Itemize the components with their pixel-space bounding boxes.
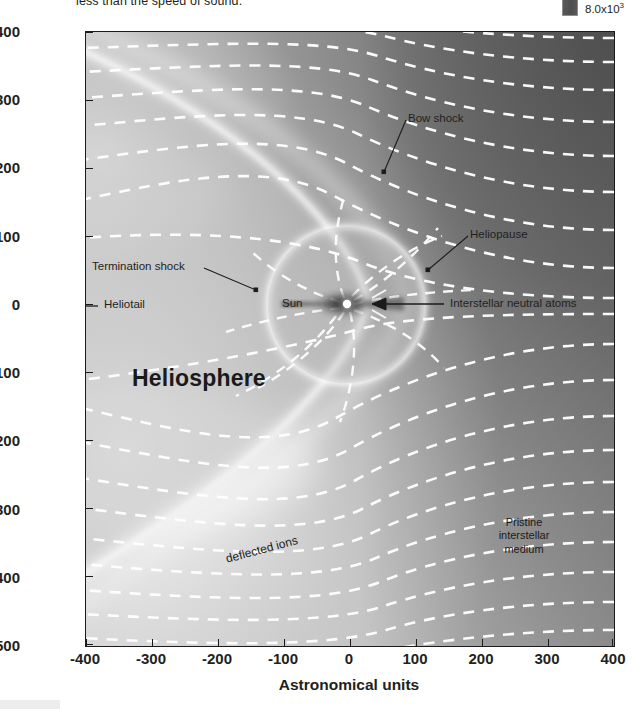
legend-value-label: 8.0x103 [585,1,624,15]
y-tick-label: 300 [0,91,20,108]
legend-exponent: 3 [620,1,624,10]
sun-core-glow [341,298,354,311]
y-tick-label: -500 [0,637,20,654]
annotation-termination-shock: Termination shock [92,260,185,272]
x-tick-mark [86,639,87,646]
x-tick-label: -100 [268,650,298,667]
heliosphere-field-plot: Bow shock Heliopause Termination shock H… [85,31,615,647]
x-tick-mark [284,639,285,646]
y-tick-mark [86,236,93,237]
x-axis-label: Astronomical units [279,676,419,694]
y-tick-label: 100 [0,227,20,244]
y-tick-mark [86,304,93,305]
y-tick-label: -400 [0,568,20,585]
caption-text: less than the speed of sound. [76,0,242,8]
x-tick-mark [152,639,153,646]
bow-shock-leader-dot [382,170,386,174]
y-tick-mark [86,644,93,645]
x-tick-mark [482,639,483,646]
annotation-heliopause: Heliopause [470,228,528,240]
y-tick-mark [86,100,93,101]
pristine-line-2: interstellar [478,529,570,542]
colorbar-legend: 8.0x103 [562,0,624,16]
annotation-neutral-atoms: Interstellar neutral atoms [450,297,577,309]
x-tick-label: -400 [70,650,100,667]
y-tick-label: -100 [0,364,20,381]
annotation-heliosphere: Heliosphere [132,365,266,392]
x-tick-label: -300 [136,650,166,667]
x-tick-label: 400 [600,650,625,667]
y-tick-label: 400 [0,23,20,40]
y-axis-label: Astronomical units [0,277,3,417]
x-tick-mark [218,639,219,646]
y-tick-label: -200 [0,432,20,449]
x-tick-mark [416,639,417,646]
legend-mantissa: 8.0x10 [585,2,620,14]
y-tick-label: 0 [12,295,20,312]
x-tick-label: 100 [402,650,427,667]
annotation-bow-shock: Bow shock [408,112,464,124]
x-tick-label: -200 [202,650,232,667]
y-tick-mark [86,32,93,33]
x-tick-mark [548,639,549,646]
y-tick-label: -300 [0,500,20,517]
y-tick-mark [86,372,93,373]
heliopause-leader-dot [426,268,430,272]
annotation-pristine-medium: Pristine interstellar medium [478,516,570,556]
x-tick-label: 0 [345,650,353,667]
x-tick-mark [350,639,351,646]
annotation-heliotail: Heliotail [104,298,145,310]
annotation-sun: Sun [282,297,302,309]
y-tick-mark [86,576,93,577]
pristine-line-3: medium [478,543,570,556]
y-tick-mark [86,168,93,169]
y-tick-mark [86,440,93,441]
x-tick-label: 200 [468,650,493,667]
legend-color-swatch [562,0,578,16]
x-tick-label: 300 [534,650,559,667]
y-tick-label: 200 [0,159,20,176]
x-tick-mark [612,639,613,646]
termination-shock-leader-dot [254,288,258,292]
page-bottom-strip [0,700,60,709]
pristine-line-1: Pristine [478,516,570,529]
y-tick-mark [86,508,93,509]
